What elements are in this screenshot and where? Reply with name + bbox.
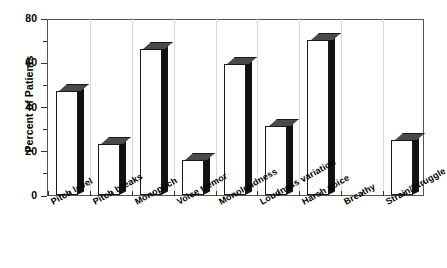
y-axis-tick-label: 80 — [25, 12, 37, 24]
x-axis-tick — [90, 191, 91, 196]
category-separator — [216, 18, 217, 195]
category-separator — [174, 18, 175, 195]
bar-side-face — [245, 61, 252, 195]
category-separator — [132, 18, 133, 195]
x-axis-tick — [48, 191, 49, 196]
bar-top-face — [143, 42, 173, 49]
bar-top-face — [59, 84, 89, 91]
bar-top-face — [227, 57, 257, 64]
bar-side-face — [161, 46, 168, 195]
bar-top-face — [311, 33, 341, 40]
x-axis-tick — [299, 191, 300, 196]
x-axis-tick — [383, 191, 384, 196]
y-axis-tick-label: 0 — [31, 189, 37, 201]
bar-top-face — [269, 119, 299, 126]
bar-front-face — [140, 49, 162, 195]
bar-front-face — [56, 91, 78, 195]
x-axis-tick — [132, 191, 133, 196]
y-axis-tick-label: 40 — [25, 101, 37, 113]
bar — [56, 91, 78, 195]
category-separator — [90, 18, 91, 195]
x-axis-tick — [174, 191, 175, 196]
bar-top-face — [185, 153, 215, 160]
plot-area — [47, 19, 424, 196]
x-axis-tick — [341, 191, 342, 196]
y-axis-tick-label: 20 — [25, 145, 37, 157]
bar-top-face — [395, 133, 425, 140]
category-separator — [299, 18, 300, 195]
category-separator — [257, 18, 258, 195]
y-axis-tick-label: 60 — [25, 56, 37, 68]
bar-top-face — [101, 137, 131, 144]
x-axis-tick — [216, 191, 217, 196]
category-separator — [341, 18, 342, 195]
bar — [140, 49, 162, 195]
x-axis-tick — [257, 191, 258, 196]
bar-side-face — [328, 37, 335, 195]
category-separator — [383, 18, 384, 195]
x-axis-label-group: Pitch levelPitch breaksMonopitchVoice tr… — [47, 198, 424, 266]
